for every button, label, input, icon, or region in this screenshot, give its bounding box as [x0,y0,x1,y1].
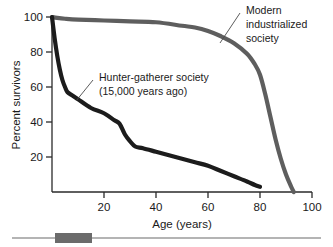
x-tick-label-80: 80 [254,201,267,213]
y-axis-title: Percent survivors [10,60,22,149]
modern-annotation-line-1: Modern [246,4,282,16]
x-tick-label-60: 60 [202,201,215,213]
y-axis-ticks [46,17,52,157]
hunter-gatherer-annotation-line-2: (15,000 years ago) [99,85,187,97]
modern-industrialized-society-annotation: Modern industrialized society [246,4,307,44]
y-tick-label-100: 100 [24,11,43,23]
x-tick-label-100: 100 [302,201,321,213]
x-axis-tick-labels: 20 40 60 80 100 [98,201,322,213]
y-tick-label-80: 80 [30,46,43,58]
hunter-gatherer-label-leader-line [76,80,93,101]
modern-annotation-line-2: industrialized [246,18,307,30]
x-tick-label-20: 20 [98,201,111,213]
footer-rule [12,233,321,243]
y-tick-label-40: 40 [30,116,43,128]
x-axis-ticks [104,192,312,198]
modern-annotation-line-3: society [246,32,279,44]
x-axis-title: Age (years) [152,218,212,230]
y-tick-label-60: 60 [30,81,43,93]
chart-canvas: 100 80 60 40 20 20 40 60 80 100 Age (yea… [0,0,333,247]
hunter-gatherer-society-annotation: Hunter-gatherer society (15,000 years ag… [99,71,209,97]
hunter-gatherer-annotation-line-1: Hunter-gatherer society [99,71,209,83]
y-tick-label-20: 20 [30,151,43,163]
y-axis-tick-labels: 100 80 60 40 20 [24,11,43,163]
footer-rule-accent-block [55,233,92,243]
x-tick-label-40: 40 [150,201,163,213]
survivorship-curve-figure: 100 80 60 40 20 20 40 60 80 100 Age (yea… [0,0,333,247]
